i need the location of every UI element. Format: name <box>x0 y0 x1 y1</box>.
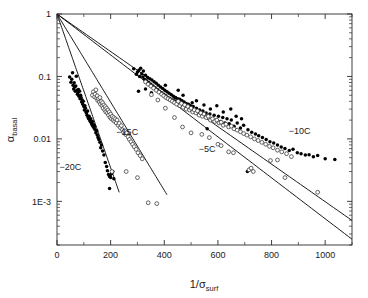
x-tick-label: 200 <box>103 250 118 260</box>
data-point <box>254 132 258 136</box>
data-point <box>205 127 209 131</box>
data-point <box>217 115 221 119</box>
data-point <box>70 78 74 82</box>
data-point <box>146 201 150 205</box>
data-point <box>93 124 97 128</box>
data-point <box>156 98 160 102</box>
data-point <box>225 117 229 121</box>
data-point <box>136 176 140 180</box>
data-point <box>227 150 231 154</box>
data-point <box>112 177 116 181</box>
data-point <box>283 147 287 151</box>
data-point <box>299 152 303 156</box>
data-point <box>144 87 148 91</box>
data-point <box>279 145 283 149</box>
alpha-basal-vs-inverse-sigma-surf-chart: 02004006008001000 10.10.011E-3 −20C−15C−… <box>0 0 368 298</box>
data-point <box>222 110 226 114</box>
data-point <box>206 114 210 118</box>
data-point <box>252 137 256 141</box>
data-point <box>100 143 104 147</box>
data-point <box>142 69 146 73</box>
data-point <box>280 150 284 154</box>
data-point <box>102 153 106 157</box>
y-tick-label: 0.01 <box>33 134 51 144</box>
data-point <box>323 157 327 161</box>
data-point <box>250 130 254 134</box>
data-point <box>246 128 250 132</box>
data-point <box>260 140 264 144</box>
data-point <box>264 142 268 146</box>
y-axis-title-subscript: basal <box>10 118 19 136</box>
data-point <box>235 121 239 125</box>
data-point <box>137 89 141 93</box>
data-point <box>95 129 99 133</box>
data-point <box>268 140 272 144</box>
data-point <box>291 148 295 152</box>
data-point <box>307 153 311 157</box>
data-point <box>242 124 246 128</box>
data-point <box>276 143 280 147</box>
data-point <box>316 154 320 158</box>
data-point <box>98 96 102 100</box>
data-point <box>176 89 180 93</box>
data-point <box>195 99 199 103</box>
data-point <box>164 84 168 88</box>
data-point <box>229 107 233 111</box>
data-point <box>215 104 219 108</box>
data-point <box>181 125 185 129</box>
x-tick-label: 0 <box>54 250 59 260</box>
x-tick-label: 1000 <box>315 250 335 260</box>
data-point <box>269 159 273 163</box>
data-point <box>209 107 213 111</box>
data-point <box>283 176 287 180</box>
data-point <box>264 138 268 142</box>
data-point <box>276 148 280 152</box>
data-point <box>249 135 253 139</box>
data-point <box>333 158 337 162</box>
data-point <box>110 170 114 174</box>
data-point <box>245 133 249 137</box>
data-point <box>94 88 98 92</box>
data-point <box>261 136 265 140</box>
data-point <box>74 84 78 88</box>
data-point <box>251 170 255 174</box>
series-annotation: −5C <box>199 144 216 154</box>
data-point <box>108 187 112 191</box>
data-point <box>296 151 300 155</box>
data-point <box>268 144 272 148</box>
data-point <box>132 67 136 71</box>
data-point <box>75 74 79 78</box>
data-point <box>150 93 154 97</box>
data-point <box>219 144 223 148</box>
data-point <box>106 169 110 173</box>
data-point <box>240 117 244 121</box>
series-annotation: −20C <box>60 162 82 172</box>
data-point <box>84 106 88 110</box>
data-point <box>173 116 177 120</box>
x-axis-title-subscript: surf <box>206 284 219 293</box>
data-point <box>91 120 95 124</box>
data-point <box>257 134 261 138</box>
data-point <box>190 101 194 105</box>
data-point <box>230 118 234 122</box>
data-point <box>173 96 177 100</box>
y-tick-label: 0.1 <box>38 72 51 82</box>
data-point <box>78 89 82 93</box>
data-point <box>304 153 308 157</box>
data-point <box>312 155 316 159</box>
data-point <box>105 165 109 169</box>
data-point <box>101 149 105 153</box>
data-point <box>104 161 108 165</box>
data-point <box>232 151 236 155</box>
data-point <box>140 157 144 161</box>
data-point <box>202 103 206 107</box>
data-point <box>207 136 211 140</box>
series-annotation: −10C <box>289 126 311 136</box>
data-point <box>181 94 185 98</box>
data-point <box>256 139 260 143</box>
series-annotation: −15C <box>116 127 138 137</box>
data-point <box>82 100 86 104</box>
x-tick-label: 600 <box>210 250 225 260</box>
figure-container: 02004006008001000 10.10.011E-3 −20C−15C−… <box>0 0 368 298</box>
data-point <box>86 109 90 113</box>
